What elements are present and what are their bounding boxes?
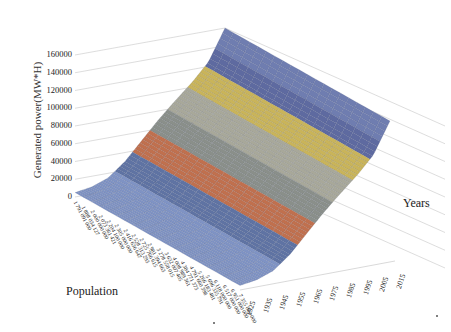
speck [213, 322, 215, 324]
population-axis-title: Population [66, 284, 118, 299]
z-tick-label: 20000 [34, 173, 72, 183]
z-tick-label: 0 [34, 191, 72, 201]
z-tick-label: 80000 [34, 120, 72, 130]
z-tick-label: 100000 [34, 102, 72, 112]
z-tick-label: 140000 [34, 67, 72, 77]
z-tick-label: 120000 [34, 85, 72, 95]
z-tick-label: 60000 [34, 138, 72, 148]
speck [436, 315, 438, 317]
z-tick-label: 160000 [34, 49, 72, 59]
years-axis-title: Years [403, 196, 430, 211]
z-tick-label: 40000 [34, 156, 72, 166]
